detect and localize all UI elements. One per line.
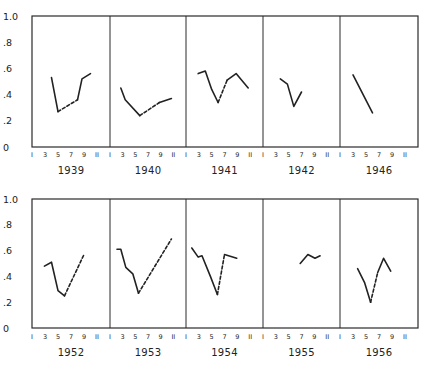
year-label: 1955 <box>288 347 315 358</box>
x-tick-label: 9 <box>235 333 239 341</box>
x-tick-label: II <box>325 151 329 159</box>
x-tick-label: 9 <box>159 333 163 341</box>
x-tick-label: I <box>31 333 33 341</box>
x-tick-label: I <box>185 333 187 341</box>
observed-segment <box>44 262 64 296</box>
x-tick-label: 5 <box>287 151 291 159</box>
x-tick-label: I <box>262 333 264 341</box>
x-tick-label: I <box>339 151 341 159</box>
year-label: 1953 <box>135 347 162 358</box>
x-tick-label: 7 <box>222 333 226 341</box>
panel-1955: I3579II1955 <box>262 199 329 358</box>
x-tick-label: 3 <box>351 333 355 341</box>
observed-segment <box>378 258 391 272</box>
interpolated-segment <box>139 239 172 293</box>
row-frame <box>32 199 418 328</box>
year-label: 1939 <box>58 165 85 176</box>
interpolated-segment <box>140 103 160 116</box>
x-tick-label: II <box>171 333 175 341</box>
x-tick-label: 9 <box>82 151 86 159</box>
x-tick-label: 5 <box>364 151 368 159</box>
x-tick-label: 3 <box>351 151 355 159</box>
panel-1952: I3579II1952 <box>31 255 99 359</box>
x-tick-label: 3 <box>43 333 47 341</box>
year-label: 1954 <box>211 347 238 358</box>
x-tick-label: II <box>95 151 99 159</box>
x-tick-label: 3 <box>274 333 278 341</box>
x-tick-label: 7 <box>377 333 381 341</box>
panel-1941: I3579II1941 <box>185 16 252 176</box>
x-tick-label: 9 <box>312 151 316 159</box>
panel-1953: I3579II1953 <box>109 199 175 358</box>
x-tick-label: 9 <box>390 333 394 341</box>
x-tick-label: 3 <box>197 151 201 159</box>
x-tick-label: II <box>248 333 252 341</box>
observed-segment <box>225 255 237 259</box>
y-tick-label: .2 <box>3 115 12 126</box>
interpolated-segment <box>65 255 85 296</box>
x-tick-label: 7 <box>146 151 150 159</box>
x-tick-label: I <box>109 333 111 341</box>
panel-1946: I3579II1946 <box>339 16 407 176</box>
y-tick-label: .2 <box>3 297 12 308</box>
y-tick-label: .6 <box>3 245 12 256</box>
y-tick-label: .8 <box>3 37 12 48</box>
x-tick-label: 5 <box>364 333 368 341</box>
chart-row-1: 0.2.4.6.81.0I3579II1939I3579II1940I3579I… <box>3 11 418 177</box>
observed-segment <box>300 255 320 264</box>
x-tick-label: II <box>325 333 329 341</box>
x-tick-label: 5 <box>133 333 137 341</box>
x-tick-label: 5 <box>210 333 214 341</box>
observed-segment <box>353 75 373 113</box>
year-label: 1952 <box>58 347 85 358</box>
x-tick-label: I <box>109 151 111 159</box>
x-tick-label: 3 <box>121 151 125 159</box>
x-tick-label: 7 <box>222 151 226 159</box>
year-label: 1946 <box>366 165 393 176</box>
observed-segment <box>52 78 59 112</box>
observed-segment <box>227 74 248 88</box>
y-tick-label: 0 <box>3 142 9 153</box>
observed-segment <box>358 269 371 303</box>
year-label: 1942 <box>288 165 315 176</box>
x-tick-label: I <box>262 151 264 159</box>
x-tick-label: 7 <box>377 151 381 159</box>
y-tick-label: .4 <box>3 89 12 100</box>
x-tick-label: II <box>95 333 99 341</box>
year-label: 1956 <box>366 347 393 358</box>
small-multiples-line-chart: 0.2.4.6.81.0I3579II1939I3579II1940I3579I… <box>0 0 430 369</box>
x-tick-label: 3 <box>43 151 47 159</box>
y-tick-label: .6 <box>3 63 12 74</box>
x-tick-label: II <box>171 151 175 159</box>
x-tick-label: 7 <box>146 333 150 341</box>
observed-segment <box>198 71 218 103</box>
interpolated-segment <box>58 100 78 112</box>
x-tick-label: 3 <box>274 151 278 159</box>
x-tick-label: 5 <box>210 151 214 159</box>
x-tick-label: 5 <box>56 151 60 159</box>
chart-row-2: 0.2.4.6.81.0I3579II1952I3579II1953I3579I… <box>3 194 418 359</box>
y-tick-label: .8 <box>3 219 12 230</box>
x-tick-label: II <box>403 333 407 341</box>
observed-segment <box>192 248 218 295</box>
x-tick-label: 9 <box>312 333 316 341</box>
x-tick-label: 9 <box>235 151 239 159</box>
observed-segment <box>117 249 139 293</box>
x-tick-label: 9 <box>390 151 394 159</box>
y-tick-label: 0 <box>3 323 9 334</box>
x-tick-label: 7 <box>69 333 73 341</box>
panel-1939: I3579II1939 <box>31 74 99 176</box>
observed-segment <box>280 79 301 107</box>
x-tick-label: 9 <box>159 151 163 159</box>
x-tick-label: 3 <box>121 333 125 341</box>
interpolated-segment <box>217 255 224 295</box>
panel-1942: I3579II1942 <box>262 16 329 176</box>
x-tick-label: I <box>339 333 341 341</box>
x-tick-label: 5 <box>133 151 137 159</box>
year-label: 1941 <box>211 165 238 176</box>
panel-1956: I3579II1956 <box>339 199 407 358</box>
year-label: 1940 <box>135 165 162 176</box>
x-tick-label: I <box>185 151 187 159</box>
y-tick-label: .4 <box>3 271 12 282</box>
row-frame <box>32 16 418 147</box>
